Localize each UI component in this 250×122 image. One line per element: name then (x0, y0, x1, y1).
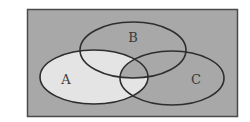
set-c-label: C (191, 72, 201, 87)
set-b-label: B (128, 30, 138, 45)
set-a-label: A (60, 72, 71, 87)
venn-diagram: A B C (0, 0, 250, 122)
